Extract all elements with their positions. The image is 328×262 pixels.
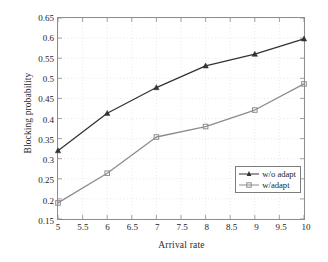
legend-marker-w-o-adapt bbox=[239, 169, 259, 179]
x-axis-title: Arrival rate bbox=[57, 240, 306, 250]
plot-area: 0.150.20.250.30.350.40.450.50.550.60.65 … bbox=[57, 17, 305, 220]
legend-label: w/adapt bbox=[262, 180, 289, 191]
y-tick-label: 0.15 bbox=[38, 216, 54, 226]
x-tick-label: 7.5 bbox=[176, 222, 187, 232]
y-axis-title: Blocking probability bbox=[23, 33, 33, 193]
y-tick-label: 0.5 bbox=[43, 74, 54, 84]
x-tick-label: 5 bbox=[56, 222, 61, 232]
x-tick-label: 9.5 bbox=[276, 222, 287, 232]
y-tick-label: 0.3 bbox=[43, 155, 54, 165]
x-tick-label: 6.5 bbox=[127, 222, 138, 232]
legend-item: w/o adapt bbox=[239, 169, 296, 180]
y-tick-label: 0.6 bbox=[43, 33, 54, 43]
x-tick-label: 8 bbox=[205, 222, 210, 232]
legend-marker-w-adapt bbox=[239, 180, 259, 190]
y-tick-label: 0.4 bbox=[43, 115, 54, 125]
x-tick-label: 9 bbox=[254, 222, 259, 232]
figure-canvas: Blocking probability 0.150.20.250.30.350… bbox=[0, 0, 328, 262]
x-tick-label: 8.5 bbox=[226, 222, 237, 232]
y-tick-label: 0.25 bbox=[38, 175, 54, 185]
y-tick-label: 0.55 bbox=[38, 54, 54, 64]
legend: w/o adapt w/adapt bbox=[235, 166, 301, 193]
x-tick-label: 5.5 bbox=[77, 222, 88, 232]
y-tick-label: 0.65 bbox=[38, 13, 54, 23]
legend-item: w/adapt bbox=[239, 180, 296, 191]
x-tick-label: 10 bbox=[302, 222, 311, 232]
x-tick-label: 6 bbox=[105, 222, 110, 232]
x-tick-label: 7 bbox=[155, 222, 160, 232]
y-tick-label: 0.35 bbox=[38, 135, 54, 145]
y-tick-label: 0.2 bbox=[43, 196, 54, 206]
y-tick-label: 0.45 bbox=[38, 94, 54, 104]
legend-label: w/o adapt bbox=[262, 169, 296, 180]
